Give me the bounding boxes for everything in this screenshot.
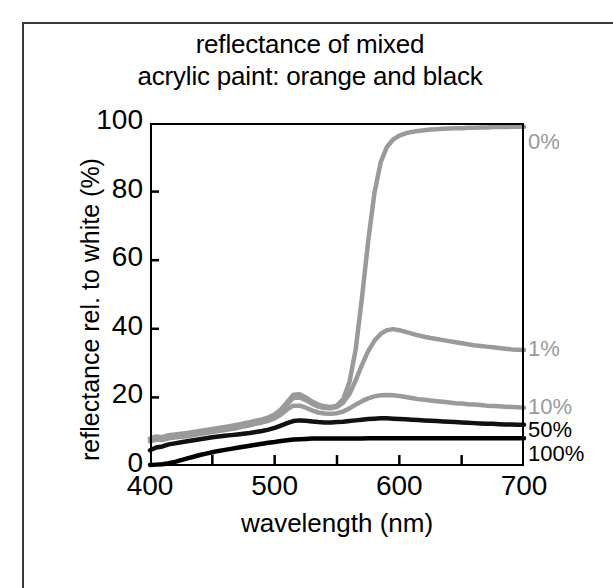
y-tick-label: 20 (0, 378, 143, 410)
y-tick-label: 100 (0, 104, 143, 136)
x-tick-label: 400 (110, 470, 190, 502)
x-axis-title: wavelength (nm) (150, 508, 524, 539)
series-label-10pct: 10% (528, 396, 572, 418)
x-axis-tick-labels: 400500600700 (0, 470, 613, 510)
series-label-0pct: 0% (528, 131, 560, 153)
series-label-100pct: 100% (528, 443, 584, 465)
series-label-1pct: 1% (528, 338, 560, 360)
y-tick-label: 80 (0, 173, 143, 205)
x-tick-label: 500 (235, 470, 315, 502)
y-tick-label: 40 (0, 310, 143, 342)
y-tick-label: 60 (0, 241, 143, 273)
series-end-labels: 0%1%10%50%100% (528, 0, 613, 588)
x-tick-label: 600 (359, 470, 439, 502)
plot-axes-frame (150, 123, 524, 466)
series-label-50pct: 50% (528, 419, 572, 441)
